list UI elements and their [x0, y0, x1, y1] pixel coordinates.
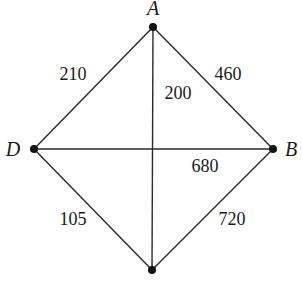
node-b-dot [269, 145, 277, 153]
labels: 210200460680105720ABD [5, 0, 297, 229]
graph-svg: 210200460680105720ABD [0, 0, 302, 282]
edge-a-d [34, 27, 153, 149]
edge-d-c [34, 149, 152, 270]
node-d-dot [30, 145, 38, 153]
edge-weight-label: 680 [192, 156, 219, 176]
edge-weight-label: 200 [165, 83, 192, 103]
node-label-d: D [5, 138, 21, 160]
edge-weight-label: 720 [219, 209, 246, 229]
edge-weight-label: 460 [215, 64, 242, 84]
node-c-dot [148, 266, 156, 274]
node-label-b: B [285, 138, 297, 160]
graph-diagram: 210200460680105720ABD [0, 0, 302, 282]
node-label-a: A [145, 0, 160, 19]
edge-weight-label: 105 [60, 209, 87, 229]
edge-weight-label: 210 [60, 64, 87, 84]
node-a-dot [149, 23, 157, 31]
